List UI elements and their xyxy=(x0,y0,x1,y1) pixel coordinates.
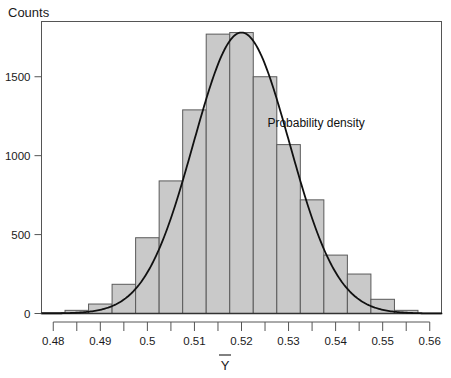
y-tick-label: 1000 xyxy=(5,150,31,162)
y-tick-label: 1500 xyxy=(5,71,31,83)
histogram-bar xyxy=(206,34,230,313)
histogram-figure: Counts 050010001500 0.480.490.50.510.520… xyxy=(0,0,451,378)
x-axis-ticks: 0.480.490.50.510.520.530.540.550.56 xyxy=(42,322,441,347)
y-tick-label: 0 xyxy=(24,308,30,320)
histogram-bar xyxy=(230,33,254,314)
x-tick-label: 0.56 xyxy=(419,335,441,347)
x-axis-title: Y xyxy=(219,355,231,373)
x-tick-label: 0.51 xyxy=(183,335,205,347)
histogram-bar xyxy=(253,77,277,314)
chart-canvas: Counts 050010001500 0.480.490.50.510.520… xyxy=(0,0,451,378)
x-tick-label: 0.49 xyxy=(89,335,111,347)
x-tick-label: 0.52 xyxy=(230,335,252,347)
y-tick-label: 500 xyxy=(11,229,30,241)
chart-annotations: Probability density xyxy=(267,116,364,130)
histogram-bar xyxy=(136,238,160,314)
histogram-bar xyxy=(159,181,183,314)
x-axis-title-label: Y xyxy=(221,358,230,373)
x-tick-label: 0.53 xyxy=(277,335,299,347)
density-annotation-label: Probability density xyxy=(267,116,364,130)
x-tick-label: 0.54 xyxy=(324,335,347,347)
x-tick-label: 0.55 xyxy=(371,335,393,347)
y-axis-ticks: 050010001500 xyxy=(5,71,42,320)
histogram-bars xyxy=(42,33,418,314)
x-tick-label: 0.48 xyxy=(42,335,64,347)
x-tick-label: 0.5 xyxy=(139,335,155,347)
y-axis-title: Counts xyxy=(8,5,50,20)
